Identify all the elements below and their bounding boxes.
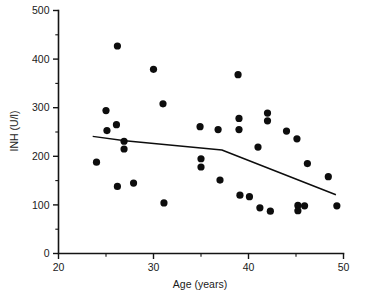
x-tick-label: 50	[338, 261, 350, 273]
data-point	[235, 126, 242, 133]
data-point	[114, 42, 121, 49]
data-point	[235, 115, 242, 122]
data-point	[293, 135, 300, 142]
data-point	[283, 127, 290, 134]
data-point	[301, 202, 308, 209]
y-tick-label: 500	[32, 4, 50, 16]
data-points	[93, 42, 341, 214]
axis-tick-labels: 010020030040050020304050	[32, 4, 350, 272]
y-axis-title: INH (U/l)	[8, 111, 20, 152]
data-point	[160, 199, 167, 206]
scatter-plot: 010020030040050020304050 Age (years) INH…	[0, 0, 365, 306]
data-point	[103, 127, 110, 134]
chart-figure: 010020030040050020304050 Age (years) INH…	[0, 0, 365, 306]
data-point	[159, 100, 166, 107]
data-point	[196, 123, 203, 130]
data-point	[130, 179, 137, 186]
axis-spines	[59, 11, 344, 254]
data-point	[114, 183, 121, 190]
data-point	[264, 117, 271, 124]
data-point	[304, 160, 311, 167]
data-point	[215, 126, 222, 133]
data-point	[102, 107, 109, 114]
data-point	[93, 159, 100, 166]
data-point	[254, 143, 261, 150]
axes	[59, 11, 344, 254]
data-point	[264, 109, 271, 116]
data-point	[113, 121, 120, 128]
y-tick-label: 0	[44, 247, 50, 259]
axis-ticks	[53, 11, 344, 260]
data-point	[256, 204, 263, 211]
data-point	[234, 71, 241, 78]
y-tick-label: 300	[32, 101, 50, 113]
data-point	[216, 177, 223, 184]
trend-line-path	[93, 136, 336, 194]
data-point	[236, 192, 243, 199]
data-point	[246, 193, 253, 200]
data-point	[150, 66, 157, 73]
data-point	[120, 145, 127, 152]
y-tick-label: 100	[32, 199, 50, 211]
trend-line	[93, 136, 336, 194]
data-point	[197, 163, 204, 170]
data-point	[294, 207, 301, 214]
y-tick-label: 400	[32, 53, 50, 65]
data-point	[325, 173, 332, 180]
x-axis-title: Age (years)	[173, 278, 227, 290]
data-point	[333, 202, 340, 209]
y-tick-label: 200	[32, 150, 50, 162]
x-tick-label: 40	[243, 261, 255, 273]
data-point	[267, 208, 274, 215]
x-tick-label: 30	[148, 261, 160, 273]
x-tick-label: 20	[53, 261, 65, 273]
data-point	[197, 155, 204, 162]
